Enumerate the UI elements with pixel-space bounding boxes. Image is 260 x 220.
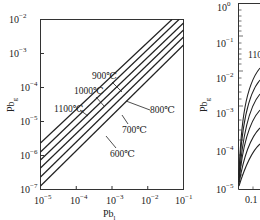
- right-ytick-label-4: 10−4: [216, 144, 234, 157]
- right-partial-label: 110: [248, 50, 260, 60]
- line-600c: [41, 45, 184, 186]
- right-chart: 100 10−1 10−2 10−3 10−4 10−5 0.1 Pbg 110: [198, 0, 260, 205]
- right-y-axis-label: Pbg: [198, 97, 212, 112]
- right-xtick-label: 0.1: [245, 194, 258, 205]
- figure: 10−2 10−3 10−4 10−5 10−6 10−7 10−5 10−4 …: [0, 0, 260, 220]
- left-y-axis-label: Pbg: [5, 97, 19, 112]
- right-ytick-label-1: 10−1: [216, 36, 234, 49]
- left-ytick-label-3: 10−5: [20, 114, 38, 127]
- left-ytick-label-0: 10−2: [9, 12, 27, 25]
- left-x-ticks: [76, 186, 148, 190]
- label-600c: 600℃: [110, 149, 135, 159]
- left-x-axis-label: Pbl: [103, 208, 116, 220]
- left-xtick-label-3: 10−2: [141, 193, 159, 206]
- left-chart: 10−2 10−3 10−4 10−5 10−6 10−7 10−5 10−4 …: [5, 12, 193, 220]
- label-1100c: 1100℃: [54, 104, 84, 114]
- right-ytick-label-3: 10−3: [216, 106, 234, 119]
- left-ytick-label-4: 10−6: [20, 148, 38, 161]
- left-ytick-label-5: 10−7: [20, 182, 38, 195]
- left-isotherm-lines: [41, 20, 184, 187]
- label-700c: 700℃: [122, 125, 147, 135]
- right-ytick-label-2: 10−2: [216, 71, 234, 84]
- right-ytick-label-0: 100: [217, 0, 231, 13]
- line-1000c: [41, 20, 180, 153]
- left-xtick-label-0: 10−5: [34, 193, 52, 206]
- left-ytick-label-2: 10−4: [20, 80, 38, 93]
- line-1100c: [41, 20, 173, 144]
- left-xtick-label-4: 10−1: [175, 193, 193, 206]
- label-900c: 900℃: [92, 71, 117, 81]
- left-ytick-label-1: 10−3: [9, 46, 27, 59]
- label-1000c: 1000℃: [74, 86, 104, 96]
- right-curves: [239, 68, 260, 186]
- line-800c: [41, 30, 184, 168]
- line-900c: [41, 23, 184, 160]
- left-xtick-label-1: 10−4: [70, 193, 88, 206]
- label-800c: 800℃: [150, 105, 175, 115]
- right-ytick-label-5: 10−5: [216, 182, 234, 195]
- left-xtick-label-2: 10−3: [106, 193, 124, 206]
